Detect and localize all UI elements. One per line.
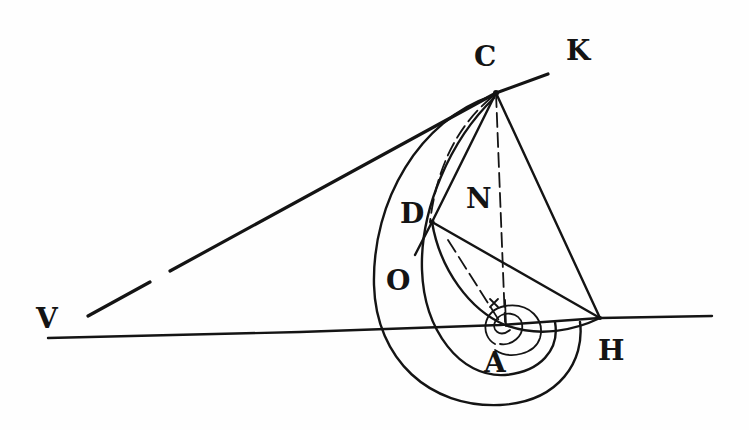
label-N: N — [466, 182, 492, 215]
line-DH — [432, 222, 600, 318]
point-H — [598, 316, 602, 320]
point-C — [493, 90, 499, 96]
cross-mark — [490, 299, 498, 307]
label-A: A — [483, 346, 507, 379]
inner-spiral-arc — [422, 98, 556, 375]
label-K: K — [566, 34, 592, 67]
label-C: C — [474, 40, 496, 73]
geometric-diagram: C K N D O V A H — [0, 0, 749, 430]
point-D — [429, 219, 434, 224]
line-CD — [415, 93, 496, 255]
label-D: D — [400, 197, 424, 230]
pole-tick-vertical — [505, 300, 506, 326]
line-CS — [496, 93, 505, 322]
label-O: O — [386, 264, 410, 297]
label-V: V — [35, 302, 59, 335]
label-H: H — [598, 334, 624, 367]
line-CH — [496, 93, 600, 318]
